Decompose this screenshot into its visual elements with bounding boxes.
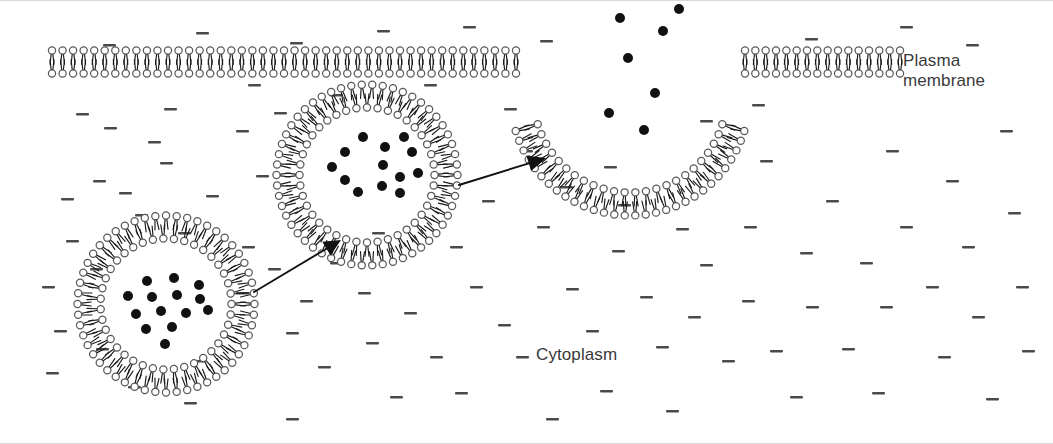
lipid-outer-tail xyxy=(442,191,451,194)
lipid-outer-head xyxy=(204,379,211,386)
cargo-particle-7 xyxy=(131,309,141,319)
lipid-inner-head xyxy=(170,365,177,372)
lipid-inner-tail xyxy=(398,60,399,70)
lipid-cytosolic-head xyxy=(562,193,569,200)
lipid-lumen-head xyxy=(673,177,680,184)
cytoplasm-dash-91 xyxy=(1022,350,1035,353)
lipid-inner-tail xyxy=(219,60,220,70)
lipid-inner-tail xyxy=(289,152,298,154)
lipid-inner-tail xyxy=(849,60,850,70)
lipid-inner-tail xyxy=(365,94,366,104)
lipid-inner-head xyxy=(394,111,401,118)
lipid-outer-tail xyxy=(387,249,391,258)
cytoplasm-dash-32 xyxy=(268,268,281,271)
lipid-inner-head xyxy=(99,285,106,292)
lipid-inner-head xyxy=(107,265,114,272)
lipid-inner-tail xyxy=(295,60,296,70)
lipid-inner-head xyxy=(403,117,410,124)
lipid-inner-tail xyxy=(857,60,858,70)
cytoplasm-dash-23 xyxy=(42,286,55,289)
lipid-inner-head xyxy=(102,275,109,282)
lipid-inner-head xyxy=(280,70,287,77)
lipid-cytosolic-head xyxy=(682,198,689,205)
lipid-inner-tail xyxy=(767,60,768,70)
lipid-outer-tail xyxy=(283,191,292,194)
plasma-membrane-left xyxy=(48,47,519,77)
lipid-outer-head xyxy=(213,228,220,235)
lipid-outer-tail xyxy=(373,252,374,262)
lipid-outer-tail xyxy=(167,379,168,389)
lipid-cytosolic-head xyxy=(538,173,545,180)
cytoplasm-dash-82 xyxy=(926,286,939,289)
lipid-outer-head xyxy=(278,140,285,147)
lipid-inner-tail xyxy=(179,60,180,70)
cytoplasm-dash-52 xyxy=(504,108,517,111)
lipid-inner-tail xyxy=(74,60,75,70)
cargo-particle-9 xyxy=(413,168,423,178)
lipid-inner-head xyxy=(139,239,146,246)
lipid-lumen-tail xyxy=(610,195,613,204)
lipid-outer-head xyxy=(248,279,255,286)
lipid-outer-head xyxy=(75,311,82,318)
lipid-outer-head xyxy=(274,161,281,168)
cytoplasm-dash-43 xyxy=(286,418,299,421)
lipid-cytosolic-head xyxy=(741,127,748,134)
lipid-inner-head xyxy=(208,253,215,260)
cytoplasm-dash-41 xyxy=(430,356,443,359)
cytoplasm-dash-66 xyxy=(666,410,679,413)
lipid-inner-head xyxy=(200,246,207,253)
lipid-inner-tail xyxy=(496,60,497,70)
cytoplasm-dash-22 xyxy=(66,240,79,243)
lipid-outer-head xyxy=(194,218,201,225)
lipid-outer-tail xyxy=(363,89,365,98)
released-cargo-particle-4 xyxy=(650,88,660,98)
lipid-inner-head xyxy=(865,70,872,77)
lipid-outer-head xyxy=(491,47,498,54)
lipid-outer-head xyxy=(74,300,81,307)
lipid-outer-tail xyxy=(191,375,195,383)
cytoplasm-dash-1 xyxy=(196,32,209,35)
lipid-outer-head xyxy=(855,47,862,54)
lipid-inner-tail xyxy=(253,60,254,70)
lipid-outer-head xyxy=(834,47,841,54)
lipid-lumen-tail xyxy=(625,197,626,207)
lipid-inner-tail xyxy=(798,60,799,70)
lipid-inner-tail xyxy=(177,60,178,70)
lipid-inner-tail xyxy=(169,60,170,70)
lipid-inner-head xyxy=(139,362,146,369)
cargo-particle-8 xyxy=(395,172,405,182)
lipid-lumen-head xyxy=(663,182,670,189)
cytoplasm-dash-53 xyxy=(537,226,550,229)
lipid-lumen-head xyxy=(653,185,660,192)
lipid-cytosolic-head xyxy=(737,137,744,144)
lipid-outer-head xyxy=(184,214,191,221)
lipid-outer-head xyxy=(399,88,406,95)
cytoplasm-dash-40 xyxy=(404,312,417,315)
cargo-particle-5 xyxy=(327,162,337,172)
lipid-inner-tail xyxy=(485,60,486,70)
lipid-outer-tail xyxy=(194,373,196,382)
lipid-inner-tail xyxy=(152,372,153,382)
lipid-inner-tail xyxy=(89,287,98,288)
lipid-inner-head xyxy=(418,211,425,218)
lipid-lumen-head xyxy=(642,188,649,195)
lipid-inner-tail xyxy=(236,305,246,306)
arrow-dock-to-fusion-shaft xyxy=(459,163,529,185)
lipid-inner-tail xyxy=(264,60,265,70)
lipid-inner-tail xyxy=(438,160,447,163)
lipid-inner-head xyxy=(512,70,519,77)
lipid-outer-head xyxy=(389,85,396,92)
lipid-inner-tail xyxy=(232,325,241,327)
lipid-inner-head xyxy=(428,151,435,158)
lipid-outer-head xyxy=(453,161,460,168)
cytoplasm-dash-65 xyxy=(688,316,701,319)
lipid-inner-tail xyxy=(435,152,444,154)
lipid-outer-head xyxy=(221,234,228,241)
cytoplasm-dash-19 xyxy=(274,112,287,115)
lipid-inner-tail xyxy=(891,60,892,70)
cytoplasm-dash-10 xyxy=(104,127,117,130)
lipid-inner-head xyxy=(411,124,418,131)
lipid-outer-head xyxy=(141,386,148,393)
lipid-inner-head xyxy=(160,366,167,373)
lipid-inner-tail xyxy=(377,60,378,70)
